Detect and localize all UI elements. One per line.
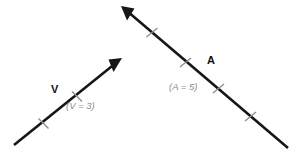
vector-v-label: V xyxy=(51,84,58,95)
vector-diagram: V (V = 3) A (A = 5) xyxy=(0,0,292,152)
vector-a-magnitude-label: (A = 5) xyxy=(169,82,197,92)
vector-a-label: A xyxy=(207,55,215,66)
vector-a-shaft xyxy=(127,11,288,148)
vector-v-magnitude-label: (V = 3) xyxy=(66,101,95,111)
vector-v-arrowhead xyxy=(109,58,123,72)
vector-a-group xyxy=(121,6,288,148)
vector-a-arrowhead xyxy=(121,6,135,21)
vector-graphics-canvas xyxy=(0,0,292,152)
